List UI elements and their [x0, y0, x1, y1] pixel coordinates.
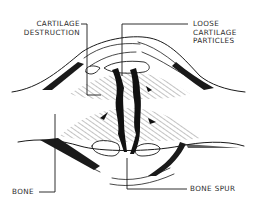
label-bone: BONE — [12, 188, 34, 197]
leader-bone — [39, 114, 55, 192]
label-bone-spur: BONE SPUR — [190, 185, 235, 194]
label-cartilage-destruction: CARTILAGE DESTRUCTION — [16, 20, 80, 37]
lower-bone — [18, 138, 244, 186]
lower-cartilage — [60, 108, 200, 142]
label-loose-cartilage-particles: LOOSE CARTILAGE PARTICLES — [193, 20, 237, 46]
joint-diagram: CARTILAGE DESTRUCTION LOOSE CARTILAGE PA… — [0, 0, 256, 208]
